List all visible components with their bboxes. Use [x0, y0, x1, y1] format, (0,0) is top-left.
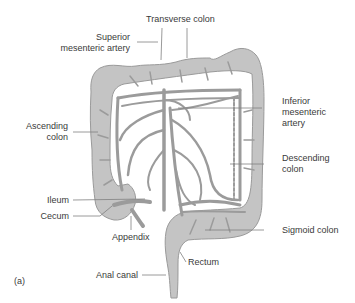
leader-rectum	[180, 252, 186, 262]
label-inferior-mesenteric-artery-line3: artery	[282, 118, 305, 129]
label-cecum: Cecum	[20, 211, 69, 222]
panel-label: (a)	[14, 276, 25, 287]
label-inferior-mesenteric-artery-line2: mesenteric	[282, 107, 326, 118]
label-superior-mesenteric-artery-line2: mesenteric artery	[58, 43, 130, 54]
label-rectum: Rectum	[188, 257, 219, 268]
label-anal-canal: Anal canal	[96, 270, 138, 281]
colon-illustration	[0, 0, 355, 303]
label-superior-mesenteric-artery-line1: Superior	[58, 32, 130, 43]
large-intestine-diagram: Transverse colon Superior mesenteric art…	[0, 0, 355, 303]
label-ascending-colon-line2: colon	[10, 132, 68, 143]
label-transverse-colon: Transverse colon	[146, 14, 215, 25]
label-appendix: Appendix	[112, 232, 150, 243]
leader-transverse-colon-a	[161, 28, 162, 60]
label-descending-colon-line1: Descending	[282, 153, 330, 164]
label-descending-colon-line2: colon	[282, 164, 304, 175]
label-inferior-mesenteric-artery-line1: Inferior	[282, 96, 310, 107]
label-ileum: Ileum	[20, 195, 69, 206]
label-sigmoid-colon: Sigmoid colon	[282, 225, 339, 236]
label-ascending-colon-line1: Ascending	[10, 121, 68, 132]
